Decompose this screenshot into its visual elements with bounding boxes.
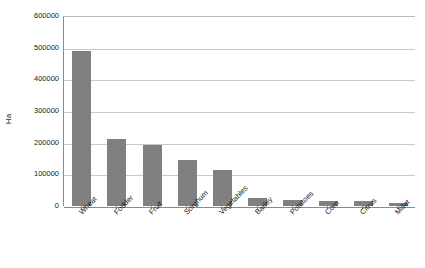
bar[interactable] xyxy=(143,145,162,206)
y-tick-label: 400000 xyxy=(7,75,59,83)
y-tick-label: 0 xyxy=(7,202,59,210)
plot-area xyxy=(63,16,415,206)
y-tick-label: 500000 xyxy=(7,44,59,52)
bar-chart-figure: Ha 6000005000004000003000002000001000000… xyxy=(0,0,425,268)
bar[interactable] xyxy=(72,51,91,206)
y-tick-label: 600000 xyxy=(7,12,59,20)
y-tick-label: 200000 xyxy=(7,139,59,147)
y-tick-label: 300000 xyxy=(7,107,59,115)
y-tick-label: 100000 xyxy=(7,170,59,178)
bars-layer xyxy=(64,17,415,206)
bar[interactable] xyxy=(107,139,126,206)
